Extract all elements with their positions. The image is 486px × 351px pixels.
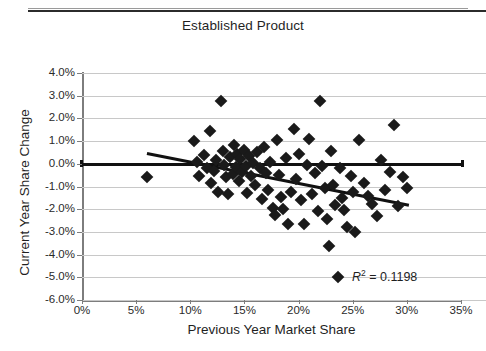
data-point [294, 194, 307, 207]
gridline-horizontal [82, 300, 486, 301]
data-point [346, 186, 359, 199]
gridline-horizontal [82, 232, 486, 233]
data-point [383, 165, 396, 178]
x-axis-tick-label: 20% [277, 304, 321, 316]
data-point [370, 210, 383, 223]
zero-line-cap [461, 160, 464, 167]
data-point [222, 188, 235, 201]
data-point [325, 145, 338, 158]
gridline-horizontal [82, 118, 486, 119]
plot-area [82, 73, 461, 300]
y-axis-tick [77, 187, 82, 188]
gridline-horizontal [82, 141, 486, 142]
data-point [298, 218, 311, 231]
x-axis-tick-label: 35% [439, 304, 483, 316]
x-axis-tick-label: 15% [222, 304, 266, 316]
y-axis-tick-label: 4.0% [23, 67, 75, 78]
data-point [387, 119, 400, 132]
r-squared-value: 0.1198 [380, 270, 417, 284]
x-axis-tick-label: 10% [168, 304, 212, 316]
y-axis-tick [77, 96, 82, 97]
data-point [240, 187, 253, 200]
x-axis-tick-label: 25% [331, 304, 375, 316]
y-axis-tick [77, 277, 82, 278]
y-axis-tick [77, 73, 82, 74]
data-point [141, 171, 154, 184]
gridline-horizontal [82, 96, 486, 97]
cut-off-header-title [88, 3, 428, 12]
y-axis-title: Current Year Share Change [17, 78, 32, 308]
header-divider [28, 10, 486, 12]
gridline-horizontal [82, 277, 486, 278]
x-axis-title: Previous Year Market Share [82, 322, 461, 337]
data-point [331, 271, 344, 284]
y-axis-tick [77, 118, 82, 119]
y-axis-tick [77, 209, 82, 210]
y-axis-tick [77, 232, 82, 233]
data-point [187, 135, 200, 148]
x-axis-tick-label: 0% [60, 304, 104, 316]
data-point [323, 239, 336, 252]
data-point [271, 134, 284, 147]
r-squared-annotation: R2 = 0.1198 [352, 268, 417, 284]
data-point [353, 134, 366, 147]
y-axis-tick [77, 255, 82, 256]
y-axis-tick [77, 164, 82, 165]
data-point [193, 170, 206, 183]
gridline-horizontal [82, 73, 486, 74]
data-point [203, 125, 216, 138]
data-point [344, 170, 357, 183]
gridline-horizontal [82, 255, 486, 256]
data-point [288, 122, 301, 135]
y-axis-tick [77, 141, 82, 142]
data-point [379, 184, 392, 197]
data-point [320, 213, 333, 226]
data-point [292, 147, 305, 160]
chart-root: Established Product 4.0%3.0%2.0%1.0%0.0%… [0, 0, 486, 351]
gridline-horizontal [82, 187, 486, 188]
data-point [281, 218, 294, 231]
data-point [303, 132, 316, 145]
x-axis-tick-label: 30% [385, 304, 429, 316]
data-point [357, 177, 370, 190]
x-axis-tick-label: 5% [114, 304, 158, 316]
